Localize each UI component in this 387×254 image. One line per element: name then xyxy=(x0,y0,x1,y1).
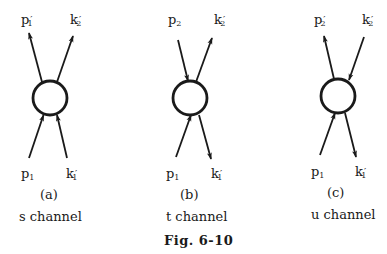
label-prime: ′ xyxy=(364,166,366,177)
line-p1-incoming xyxy=(29,115,44,158)
label-b-top-left: p2 xyxy=(168,13,181,30)
line-p2-incoming xyxy=(178,40,188,81)
label-a-bottom-right: k′1 xyxy=(66,167,77,184)
label-b-bottom-right: k′1 xyxy=(211,167,222,184)
label-sub: 1 xyxy=(174,173,179,182)
label-a-top-left: p′1 xyxy=(21,13,33,30)
line-k1prime-incoming xyxy=(57,115,67,158)
label-a-bottom-left: p1 xyxy=(21,167,34,184)
line-k1prime-outgoing xyxy=(345,113,356,157)
label-b-top-right: k′2 xyxy=(214,13,225,30)
figure-caption: Fig. 6-10 xyxy=(164,233,233,248)
label-prime: ′ xyxy=(371,14,373,25)
line-k1prime-outgoing xyxy=(199,115,211,159)
label-sub: 1 xyxy=(319,171,324,180)
label-prime: ′ xyxy=(220,168,222,179)
label-c-top-left: p′2 xyxy=(314,13,326,30)
line-p1prime-outgoing xyxy=(29,33,42,82)
line-p1-incoming xyxy=(176,115,191,157)
sublabel-c: (c) xyxy=(327,186,344,200)
label-prime: ′ xyxy=(223,14,225,25)
vertex-blob xyxy=(33,81,67,115)
vertex-blob xyxy=(173,81,207,115)
label-c-bottom-left: p1 xyxy=(311,165,324,182)
label-a-top-right: k′2 xyxy=(70,13,81,30)
label-prime: ′ xyxy=(30,14,32,25)
channel-label-s: s channel xyxy=(19,210,82,224)
label-b-bottom-left: p1 xyxy=(166,167,179,184)
diagram-a-s-channel xyxy=(29,33,73,158)
label-prime: ′ xyxy=(75,168,77,179)
label-c-bottom-right: k′1 xyxy=(355,165,366,182)
line-p2prime-outgoing xyxy=(324,36,334,79)
label-sub: 2 xyxy=(176,19,181,28)
diagram-b-t-channel xyxy=(173,38,212,159)
label-c-top-right: k′2 xyxy=(362,13,373,30)
channel-label-t: t channel xyxy=(166,210,227,224)
vertex-blob xyxy=(321,79,355,113)
sublabel-b: (b) xyxy=(180,188,198,202)
label-prime: ′ xyxy=(323,14,325,25)
channel-label-u: u channel xyxy=(311,208,376,222)
label-prime: ′ xyxy=(79,14,81,25)
line-k2prime-outgoing xyxy=(57,36,73,82)
sublabel-a: (a) xyxy=(40,188,58,202)
label-sub: 1 xyxy=(29,173,34,182)
line-k2prime-outgoing xyxy=(196,38,212,82)
diagram-c-u-channel xyxy=(320,36,364,157)
line-k2prime-incoming xyxy=(349,37,364,80)
line-p1-incoming xyxy=(320,113,335,155)
